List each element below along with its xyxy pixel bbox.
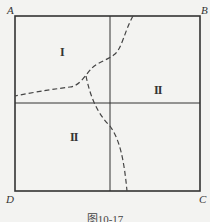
region-label-ii-lower: II [70, 131, 77, 143]
region-label-i: I [60, 46, 64, 58]
corner-label-a: A [7, 5, 14, 16]
figure-caption: 图10-17 [0, 214, 210, 222]
corner-label-d: D [6, 194, 14, 205]
diagram-canvas [0, 0, 210, 222]
corner-label-c: C [199, 194, 206, 205]
dashed-boundary-upper [15, 16, 133, 96]
dashed-boundary-lower [86, 76, 127, 191]
corner-label-b: B [201, 5, 208, 16]
region-label-ii-right: II [154, 84, 161, 96]
